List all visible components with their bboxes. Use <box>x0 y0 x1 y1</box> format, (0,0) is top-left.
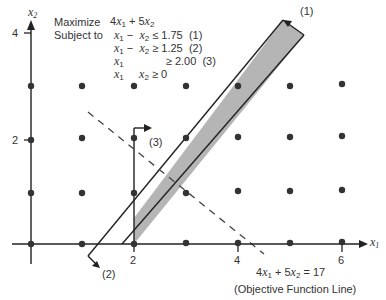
x-axis-label: x1 <box>370 236 379 252</box>
y-tick-4: 4 <box>12 27 18 39</box>
objective-line-caption: (Objective Function Line) <box>234 283 356 295</box>
label-constraint-2: (2) <box>102 268 115 280</box>
y-axis-label: x2 <box>28 6 37 22</box>
x-tick-2: 2 <box>130 254 136 266</box>
x-tick-4: 4 <box>234 254 240 266</box>
y-tick-2: 2 <box>12 134 18 146</box>
arrow-3-icon <box>144 124 152 132</box>
label-constraint-3: (3) <box>149 136 162 148</box>
objective-label: Maximize <box>54 16 100 28</box>
objective-line-equation: 4x1 + 5x2 = 17 <box>256 266 325 282</box>
subject-to-label: Subject to <box>54 29 103 41</box>
label-constraint-1: (1) <box>300 5 313 17</box>
x-axis-arrow-icon <box>359 240 368 248</box>
x-tick-6: 6 <box>338 254 344 266</box>
constraint-nonneg: x1 x2 ≥ 0 <box>114 68 167 84</box>
